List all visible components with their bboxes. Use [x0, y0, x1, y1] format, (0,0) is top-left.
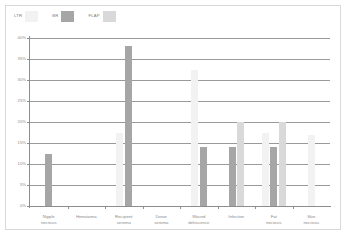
- x-category-label: Nipple necrosis: [30, 214, 68, 225]
- x-category-label: Fat necrosis: [255, 214, 293, 225]
- gridline: [30, 59, 330, 60]
- x-category-label: Skin necrosis: [293, 214, 331, 225]
- gridline: [30, 80, 330, 81]
- bar: [125, 46, 132, 206]
- legend-item-flap[interactable]: FLAP: [88, 11, 115, 22]
- y-tick-label: 40%: [18, 36, 26, 40]
- legend-label: BR: [52, 14, 58, 18]
- chart-legend: LTRBRFLAP: [14, 9, 116, 23]
- legend-item-br[interactable]: BR: [52, 11, 74, 22]
- x-tick-mark: [143, 206, 144, 209]
- y-tick-label: 15%: [18, 141, 26, 145]
- y-tick-label: 0%: [20, 204, 26, 208]
- y-tick-label: 25%: [18, 99, 26, 103]
- legend-label: FLAP: [88, 14, 99, 18]
- legend-swatch-icon: [25, 11, 38, 22]
- x-category-label: Infection: [218, 214, 256, 220]
- x-tick-mark: [218, 206, 219, 209]
- bar: [116, 133, 123, 207]
- x-category-label: Hematoma: [68, 214, 106, 220]
- bar: [191, 70, 198, 207]
- legend-swatch-icon: [103, 11, 116, 22]
- y-axis-labels: 0%5%10%15%20%25%30%35%40%: [0, 0, 26, 242]
- bar: [229, 147, 236, 206]
- bar: [270, 147, 277, 206]
- x-tick-mark: [105, 206, 106, 209]
- x-category-label: Donor seroma: [143, 214, 181, 225]
- y-tick-label: 30%: [18, 78, 26, 82]
- gridline: [30, 38, 330, 39]
- bar: [200, 147, 207, 206]
- bar-chart: LTRBRFLAP 0%5%10%15%20%25%30%35%40% Nipp…: [0, 0, 346, 242]
- x-tick-mark: [68, 206, 69, 209]
- y-tick-label: 10%: [18, 162, 26, 166]
- x-category-label: Wound dehiscence: [180, 214, 218, 225]
- bar: [262, 133, 269, 207]
- x-axis-categories: Nipple necrosisHematomaRecipient seromaD…: [30, 210, 330, 236]
- legend-swatch-icon: [61, 11, 74, 22]
- x-tick-mark: [180, 206, 181, 209]
- bar: [237, 122, 244, 206]
- plot-area: [30, 38, 330, 206]
- y-tick-label: 35%: [18, 57, 26, 61]
- y-tick-label: 20%: [18, 120, 26, 124]
- x-tick-mark: [293, 206, 294, 209]
- bar: [279, 122, 286, 206]
- x-category-label: Recipient seroma: [105, 214, 143, 225]
- bar: [308, 135, 315, 206]
- gridline: [30, 101, 330, 102]
- y-tick-label: 5%: [20, 183, 26, 187]
- x-tick-mark: [255, 206, 256, 209]
- bar: [45, 154, 52, 207]
